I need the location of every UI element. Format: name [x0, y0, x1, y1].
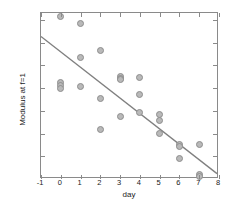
x-tick-top [160, 13, 161, 17]
x-tick-label: 2 [97, 178, 101, 187]
x-tick-label: 3 [117, 178, 121, 187]
data-point [196, 141, 203, 148]
y-tick-right [213, 65, 217, 66]
x-tick-top [140, 13, 141, 17]
x-axis-title: day [40, 190, 218, 199]
data-point [77, 54, 84, 61]
data-point [97, 126, 104, 133]
x-tick-top [41, 13, 42, 17]
y-axis-title: Modulus at f=1 [18, 40, 27, 160]
x-tick-top [179, 13, 180, 17]
x-tick-top [61, 13, 62, 17]
plot-area [40, 12, 218, 178]
data-point [136, 74, 143, 81]
y-tick [41, 43, 45, 44]
data-point [156, 117, 163, 124]
x-tick-top [100, 13, 101, 17]
x-tick-top [199, 13, 200, 17]
x-tick-label: 0 [58, 178, 62, 187]
y-tick [41, 88, 45, 89]
data-point [77, 20, 84, 27]
y-tick [41, 156, 45, 157]
y-tick [41, 111, 45, 112]
x-tick-label: -1 [37, 178, 44, 187]
x-tick-label: 1 [77, 178, 81, 187]
x-tick-top [81, 13, 82, 17]
data-point [77, 83, 84, 90]
x-tick-top [219, 13, 220, 17]
figure-container: -1012345678 10203040506070 day Modulus a… [0, 0, 249, 210]
data-point [97, 47, 104, 54]
y-tick [41, 65, 45, 66]
x-tick-label: 8 [216, 178, 220, 187]
regression-line [41, 13, 217, 177]
y-tick [41, 20, 45, 21]
data-point [117, 76, 124, 83]
x-tick-top [120, 13, 121, 17]
data-point [57, 85, 64, 92]
x-tick-label: 5 [157, 178, 161, 187]
x-tick-label: 4 [137, 178, 141, 187]
x-tick-label: 6 [176, 178, 180, 187]
y-tick-right [213, 111, 217, 112]
data-point [176, 143, 183, 150]
y-tick-right [213, 88, 217, 89]
data-point [117, 113, 124, 120]
y-tick-right [213, 156, 217, 157]
y-tick-right [213, 134, 217, 135]
y-tick-right [213, 43, 217, 44]
x-tick-label: 7 [196, 178, 200, 187]
y-tick [41, 134, 45, 135]
y-tick-right [213, 20, 217, 21]
